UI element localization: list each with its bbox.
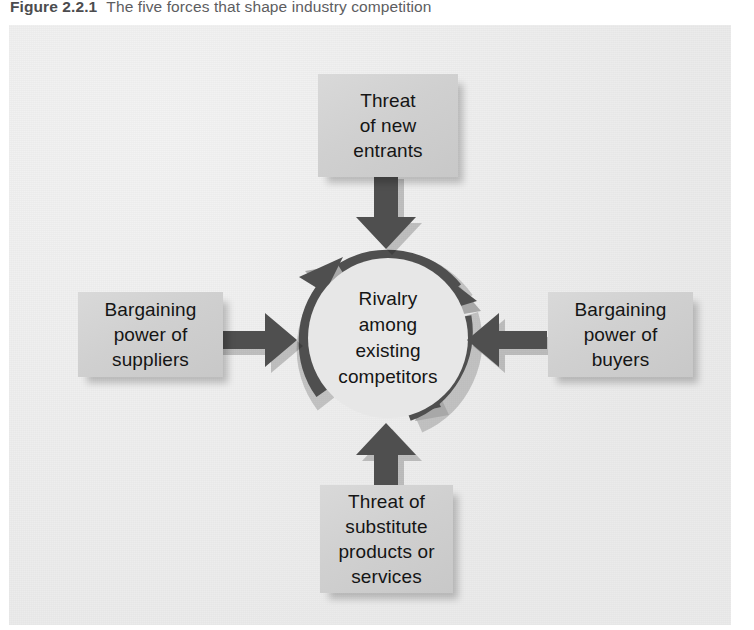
force-box-buyers: Bargainingpower ofbuyers — [548, 292, 693, 377]
figure-number: Figure 2.2.1 — [10, 0, 97, 15]
rivalry-ring: Rivalryamongexistingcompetitors — [281, 231, 495, 445]
force-label-suppliers: Bargainingpower ofsuppliers — [99, 297, 203, 372]
force-label-new-entrants: Threatof newentrants — [347, 88, 428, 163]
rivalry-center: Rivalryamongexistingcompetitors — [308, 258, 468, 418]
figure-panel: Threatof newentrants Bargainingpower ofs… — [9, 25, 731, 625]
force-label-substitutes: Threat ofsubstituteproducts orservices — [332, 489, 440, 589]
arrow-down-icon — [354, 173, 422, 255]
force-label-buyers: Bargainingpower ofbuyers — [569, 297, 673, 372]
arrow-left-icon — [467, 312, 553, 374]
force-box-suppliers: Bargainingpower ofsuppliers — [78, 292, 223, 377]
force-box-new-entrants: Threatof newentrants — [318, 74, 458, 177]
figure-title: The five forces that shape industry comp… — [106, 0, 431, 15]
figure-caption: Figure 2.2.1The five forces that shape i… — [10, 0, 750, 20]
rivalry-label: Rivalryamongexistingcompetitors — [338, 286, 437, 390]
force-box-substitutes: Threat ofsubstituteproducts orservices — [320, 485, 453, 593]
arrow-right-icon — [217, 312, 303, 374]
